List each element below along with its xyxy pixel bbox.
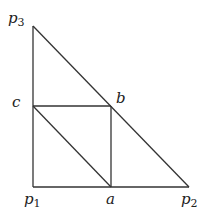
triangle-subdivision-diagram: p3 c b p1 a p2	[0, 0, 208, 220]
segment-c-a	[33, 106, 111, 187]
diagram-lines	[0, 0, 208, 220]
label-c: c	[12, 95, 20, 110]
label-p3: p3	[8, 11, 25, 28]
label-p1: p1	[24, 192, 41, 209]
label-b: b	[116, 91, 126, 106]
label-a: a	[106, 192, 115, 207]
label-p2: p2	[181, 192, 198, 209]
